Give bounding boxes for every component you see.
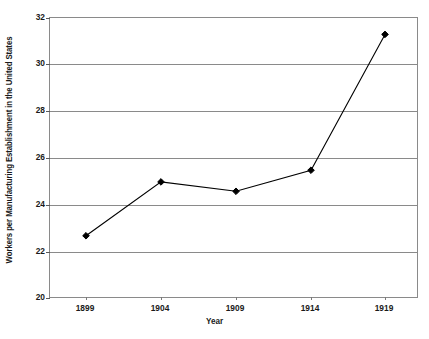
x-tick-label: 1904 [134,302,187,313]
data-point-marker [233,188,240,195]
data-point-marker [308,167,315,174]
line-chart-figure: Workers per Manufacturing Establishment … [0,0,429,339]
y-axis-title: Workers per Manufacturing Establishment … [0,0,18,300]
y-tick-label: 20 [24,292,45,302]
x-axis-title-text: Year [206,316,223,326]
y-tick-label: 22 [24,246,45,256]
y-tick-label: 26 [24,152,45,162]
y-tick-label: 30 [24,58,45,68]
x-axis-title: Year [0,316,429,326]
data-series-line [50,18,419,299]
data-point-marker [382,31,389,38]
y-axis-tick-labels: 32 30 28 26 24 22 20 [18,0,45,339]
plot-area [49,17,418,298]
series-polyline [86,34,385,235]
x-tick-label: 1914 [284,302,337,313]
y-tick-label: 24 [24,199,45,209]
x-tick-label: 1899 [59,302,112,313]
x-tick-label: 1909 [209,302,262,313]
y-tick-label: 28 [24,105,45,115]
x-tick-label: 1919 [358,302,411,313]
y-axis-title-text: Workers per Manufacturing Establishment … [4,37,14,264]
y-tick-label: 32 [24,12,45,22]
